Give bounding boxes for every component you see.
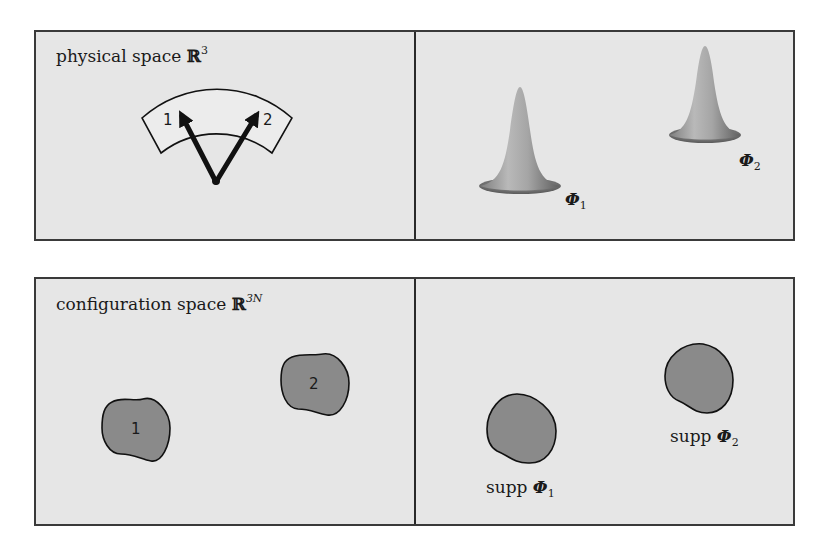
- configuration-space-panel: configuration space ℝ3N 1 2 supp Φ1 supp…: [34, 277, 795, 526]
- bump-label-phi-1: Φ1: [565, 189, 587, 212]
- support-label-phi-1: supp Φ1: [486, 477, 555, 500]
- physical-space-figure: physical space ℝ3 1 2 Φ1 Φ2: [36, 32, 793, 239]
- particle-label-1: 1: [163, 111, 173, 129]
- wavefunction-bump-1: [479, 87, 561, 194]
- arrow-origin-dot: [212, 177, 220, 185]
- physical-space-title: physical space ℝ3: [56, 44, 208, 66]
- particle-label-2: 2: [263, 111, 273, 129]
- physical-space-panel: physical space ℝ3 1 2 Φ1 Φ2: [34, 30, 795, 241]
- region-label-2: 2: [309, 375, 319, 393]
- configuration-space-figure: configuration space ℝ3N 1 2 supp Φ1 supp…: [36, 279, 793, 524]
- support-region-phi-2: [665, 344, 733, 413]
- bump-label-phi-2: Φ2: [739, 150, 761, 173]
- support-region-phi-1: [487, 394, 556, 463]
- region-label-1: 1: [131, 420, 141, 438]
- wavefunction-bump-2: [669, 46, 741, 143]
- configuration-space-title: configuration space ℝ3N: [56, 292, 263, 314]
- support-label-phi-2: supp Φ2: [670, 426, 739, 449]
